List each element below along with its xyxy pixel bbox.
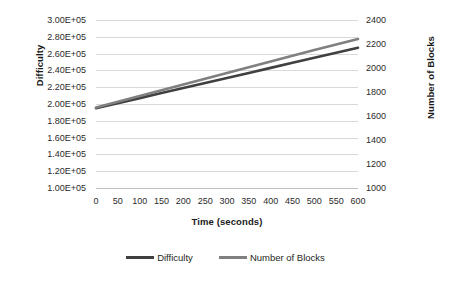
legend-label: Number of Blocks: [250, 252, 325, 263]
x-axis-tick-label: 600: [343, 196, 373, 206]
legend-entry[interactable]: Difficulty: [126, 252, 193, 263]
chart-legend: DifficultyNumber of Blocks: [0, 252, 451, 263]
gridline: [96, 188, 358, 189]
series-line-difficulty: [96, 48, 358, 108]
chart-container: Difficulty Number of Blocks Time (second…: [0, 0, 451, 285]
legend-swatch: [126, 256, 154, 259]
data-series-layer: [96, 20, 358, 188]
legend-label: Difficulty: [157, 252, 193, 263]
series-line-number-of-blocks: [96, 39, 358, 108]
plot-area: [96, 20, 358, 188]
legend-swatch: [219, 256, 247, 259]
legend-entry[interactable]: Number of Blocks: [219, 252, 325, 263]
